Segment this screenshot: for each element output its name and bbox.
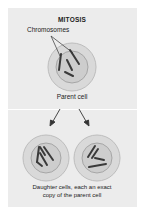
parent-cell [48,43,96,91]
division-arrows [50,109,89,126]
daughter-caption-line2: copy of the parent cell [0,192,144,200]
daughter-cell-right [74,135,120,181]
daughter-cells-caption: Daughter cells, each an exact copy of th… [0,184,144,199]
daughter-caption-line1: Daughter cells, each an exact [0,184,144,192]
diagram-title: MITOSIS [0,16,144,23]
diagram-graphics [0,0,144,214]
parent-cell-label: Parent cell [0,93,144,100]
daughter-cell-left [23,135,69,181]
mitosis-diagram: MITOSIS Chromosomes Parent cell Daughter… [0,0,144,214]
chromosomes-label: Chromosomes [27,26,69,33]
